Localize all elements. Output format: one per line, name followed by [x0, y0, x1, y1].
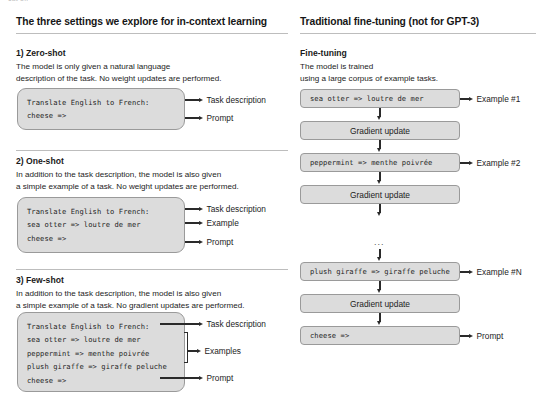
code-line: Translate English to French:: [27, 205, 175, 218]
arrow-shaft: [185, 241, 199, 242]
arrow-head-icon: [199, 376, 203, 380]
code-line: plush giraffe => giraffe peluche: [27, 360, 175, 373]
annotation-label: Prompt: [207, 238, 234, 246]
flow-ellipsis: ...: [374, 238, 385, 247]
annotation-few-shot-prompt: Prompt: [160, 374, 233, 382]
annotation-prompt: Prompt: [460, 332, 503, 340]
arrow-shaft: [185, 99, 199, 100]
left-column-title: The three settings we explore for in-con…: [16, 16, 288, 27]
top-cutoff-text: cut off: [8, 0, 28, 1]
annotation-label: Task description: [207, 96, 267, 104]
flow-box-example-1: sea otter => loutre de mer: [300, 89, 460, 108]
right-column-title-bold: Traditional fine-tuning: [300, 16, 406, 27]
section-few-shot-heading: 3) Few-shot: [16, 275, 288, 285]
code-line: Translate English to French:: [27, 320, 175, 333]
section-few-shot-body: In addition to the task description, the…: [16, 288, 288, 311]
arrow-head-icon: [199, 116, 203, 120]
flow-box-example-2: peppermint => menthe poivrée: [300, 153, 460, 172]
annotation-few-shot-task-description: Task description: [160, 320, 266, 328]
arrow-head-icon: [377, 212, 381, 216]
annotation-one-shot-prompt: Prompt: [185, 238, 233, 246]
flow-box-gradient-update-1: Gradient update: [300, 121, 460, 140]
annotation-label: Example #2: [477, 159, 521, 167]
figure-canvas: cut off The three settings we explore fo…: [0, 0, 542, 411]
arrow-head-icon: [377, 321, 381, 325]
right-column-rule: [300, 33, 536, 34]
code-line: cheese =>: [27, 109, 175, 122]
arrow-head-icon: [469, 161, 473, 165]
flow-box-text: cheese =>: [310, 331, 349, 340]
annotation-few-shot-examples: Examples: [188, 347, 241, 355]
flow-box-prompt: cheese =>: [300, 326, 460, 345]
code-line: sea otter => loutre de mer: [27, 218, 175, 231]
arrow-head-icon: [469, 270, 473, 274]
code-line: cheese =>: [27, 232, 175, 245]
annotation-label: Task description: [207, 205, 267, 213]
one-shot-code-box: Translate English to French: sea otter =…: [17, 197, 185, 253]
annotation-example-2: Example #2: [460, 159, 520, 167]
arrow-shaft: [185, 117, 199, 118]
section-zero-shot-heading: 1) Zero-shot: [16, 48, 288, 58]
annotation-label: Prompt: [207, 374, 234, 382]
arrow-shaft: [185, 208, 199, 209]
flow-box-example-n: plush giraffe => giraffe peluche: [300, 262, 460, 281]
right-column-title-regular: (not for GPT-3): [409, 16, 480, 27]
annotation-zero-shot-prompt: Prompt: [185, 114, 233, 122]
arrow-head-icon: [377, 257, 381, 261]
section-one-shot: 2) One-shot In addition to the task desc…: [16, 148, 288, 192]
flow-box-text: plush giraffe => giraffe peluche: [310, 267, 450, 276]
annotation-label: Example: [207, 219, 239, 227]
flow-box-text: Gradient update: [350, 190, 410, 200]
flow-box-text: peppermint => menthe poivrée: [310, 158, 432, 167]
arrow-head-icon: [377, 180, 381, 184]
flow-box-text: sea otter => loutre de mer: [310, 94, 424, 103]
arrow-head-icon: [469, 334, 473, 338]
flow-box-text: Gradient update: [350, 299, 410, 309]
arrow-head-icon: [377, 148, 381, 152]
fine-tuning-body: The model is trained using a large corpu…: [300, 61, 536, 84]
arrow-head-icon: [199, 207, 203, 211]
right-column: Traditional fine-tuning (not for GPT-3): [300, 16, 536, 34]
annotation-label: Prompt: [477, 332, 504, 340]
fine-tuning-heading: Fine-tuning: [300, 48, 536, 58]
left-column-rule: [16, 33, 288, 34]
annotation-label: Prompt: [207, 114, 234, 122]
arrow-head-icon: [377, 289, 381, 293]
flow-box-gradient-update-2: Gradient update: [300, 185, 460, 204]
annotation-label: Examples: [205, 347, 241, 355]
section-few-shot: 3) Few-shot In addition to the task desc…: [16, 267, 288, 311]
arrow-head-icon: [199, 221, 203, 225]
arrow-head-icon: [197, 349, 201, 353]
code-line: sea otter => loutre de mer: [27, 333, 175, 346]
code-line: peppermint => menthe poivrée: [27, 347, 175, 360]
arrow-head-icon: [469, 97, 473, 101]
section-one-shot-heading: 2) One-shot: [16, 156, 288, 166]
zero-shot-code-box: Translate English to French: cheese =>: [17, 88, 185, 130]
arrow-head-icon: [199, 322, 203, 326]
section-one-shot-body: In addition to the task description, the…: [16, 169, 288, 192]
annotation-one-shot-task-description: Task description: [185, 205, 266, 213]
arrow-shaft: [160, 377, 199, 378]
arrow-head-icon: [199, 240, 203, 244]
flow-box-gradient-update-3: Gradient update: [300, 294, 460, 313]
arrow-head-icon: [199, 98, 203, 102]
annotation-label: Task description: [207, 320, 267, 328]
left-column: The three settings we explore for in-con…: [16, 16, 288, 34]
flow-box-text: Gradient update: [350, 126, 410, 136]
annotation-zero-shot-task-description: Task description: [185, 96, 266, 104]
arrow-shaft: [185, 222, 199, 223]
annotation-label: Example #1: [477, 95, 521, 103]
code-line: Translate English to French:: [27, 96, 175, 109]
fine-tuning-intro: Fine-tuning The model is trained using a…: [300, 48, 536, 84]
code-line: cheese =>: [27, 374, 175, 387]
section-zero-shot-body: The model is only given a natural langua…: [16, 61, 288, 84]
annotation-one-shot-example: Example: [185, 219, 239, 227]
right-column-title: Traditional fine-tuning (not for GPT-3): [300, 16, 536, 27]
arrow-shaft: [160, 323, 199, 324]
annotation-example-1: Example #1: [460, 95, 520, 103]
annotation-example-n: Example #N: [460, 268, 522, 276]
annotation-label: Example #N: [477, 268, 522, 276]
arrow-head-icon: [377, 116, 381, 120]
section-zero-shot: 1) Zero-shot The model is only given a n…: [16, 48, 288, 84]
